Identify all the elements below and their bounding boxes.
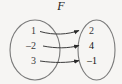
domain-element-neg2: –2 [16,41,36,51]
range-element-4: 4 [89,41,94,51]
arrow-3-to-neg1 [40,61,79,63]
range-oval [78,20,115,80]
arrow-1-to-2 [40,31,79,35]
range-element-neg1: –1 [87,56,97,66]
arrow-neg2-to-4 [43,46,79,48]
range-element-2: 2 [89,26,94,36]
function-label: F [0,0,122,12]
domain-element-3: 3 [20,56,36,66]
function-mapping-diagram: F 1 –2 3 2 4 –1 [0,0,122,84]
domain-element-1: 1 [20,26,36,36]
